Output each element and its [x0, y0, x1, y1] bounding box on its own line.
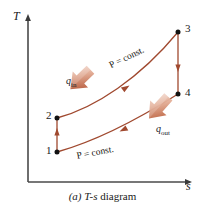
state-point-3: [176, 30, 181, 35]
y-axis-label: T: [13, 10, 20, 22]
q-out-label: qout: [156, 124, 170, 137]
process-3-4-arrowhead: [175, 65, 180, 73]
ts-diagram-figure: T s 1 2 3 4 qin qout P = const. P = cons…: [0, 0, 205, 210]
caption-symbol: T-s: [84, 190, 97, 202]
q-out-subscript: out: [161, 129, 170, 137]
state-point-4: [176, 92, 181, 97]
state-label-2: 2: [46, 110, 52, 121]
figure-caption: (a) T-s diagram: [0, 190, 205, 202]
process-2-3-arrowhead: [121, 86, 130, 93]
q-in-label: qin: [66, 76, 76, 89]
q-out-arrow-icon: [141, 89, 177, 125]
process-1-2-arrowhead: [54, 128, 59, 136]
state-point-1: [55, 150, 60, 155]
state-label-4: 4: [185, 87, 191, 98]
y-axis-arrowhead: [25, 14, 31, 21]
plot-canvas: [0, 0, 205, 210]
state-point-2: [55, 116, 60, 121]
q-in-subscript: in: [71, 81, 76, 89]
caption-text: diagram: [100, 190, 136, 202]
state-label-3: 3: [185, 23, 191, 34]
caption-prefix: (a): [69, 190, 82, 202]
state-label-1: 1: [46, 145, 52, 156]
